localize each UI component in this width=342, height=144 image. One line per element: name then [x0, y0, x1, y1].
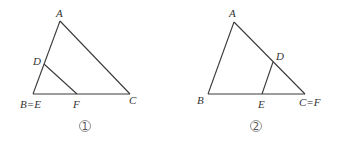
label-a: A [55, 7, 63, 19]
caption-1: 1 [80, 121, 91, 132]
segment-df [44, 64, 77, 94]
segment-ab [208, 22, 234, 94]
label-b-equals-e: B=E [20, 98, 41, 110]
caption-2: 2 [251, 121, 262, 132]
label-c: C [129, 94, 137, 106]
label-d: D [32, 55, 41, 67]
label-f: F [72, 98, 80, 110]
caption-1-number: 1 [82, 121, 88, 132]
label-b: B [197, 94, 204, 106]
label-a: A [228, 7, 236, 19]
label-e: E [257, 98, 265, 110]
figure-1: A D B=E F C 1 [20, 7, 137, 132]
segment-de [262, 62, 273, 94]
label-d: D [275, 50, 284, 62]
label-c-equals-f: C=F [299, 96, 321, 108]
caption-2-number: 2 [253, 121, 259, 132]
diagram-canvas: A D B=E F C 1 A D B E C=F 2 [0, 0, 342, 144]
figure-2: A D B E C=F 2 [197, 7, 321, 132]
segment-ac [234, 22, 305, 94]
segment-ac [60, 21, 130, 94]
